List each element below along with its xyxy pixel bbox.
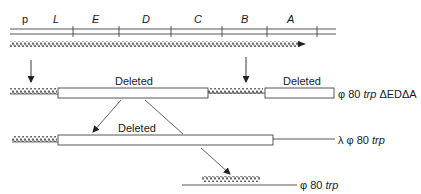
row-lambda-phi80-trp xyxy=(12,135,335,145)
gene-label-L: L xyxy=(53,13,59,25)
strain-prefix: λ φ 80 xyxy=(338,134,372,146)
deleted-label-2: Deleted xyxy=(283,75,321,87)
strain-prefix: φ 80 xyxy=(338,88,363,100)
arrow-diagonal-bottom xyxy=(201,148,230,174)
strain-gene: trp xyxy=(372,134,385,146)
strain-label-phi80-trp: φ 80 trp xyxy=(300,179,338,191)
mrna-transcript xyxy=(10,41,306,47)
gene-label-A: A xyxy=(287,13,294,25)
row-phi80-trp-deletion xyxy=(10,88,334,98)
strain-gene: trp xyxy=(325,179,338,191)
strain-label-phi80-trp-deletion: φ 80 trp ΔEDΔA xyxy=(338,88,417,100)
deleted-label-1: Deleted xyxy=(115,75,153,87)
deleted-label-3: Deleted xyxy=(118,122,156,134)
arrow-diagonal-left xyxy=(93,100,121,132)
gene-label-B: B xyxy=(241,13,248,25)
strain-suffix: ΔEDΔA xyxy=(376,88,416,100)
gene-label-E: E xyxy=(92,13,99,25)
gene-map xyxy=(10,26,336,37)
strain-label-lambda-phi80-trp: λ φ 80 trp xyxy=(338,134,385,146)
gene-label-D: D xyxy=(142,13,150,25)
gene-label-C: C xyxy=(194,13,202,25)
row-phi80-trp xyxy=(182,176,297,185)
strain-prefix: φ 80 xyxy=(300,179,325,191)
gene-label-p: p xyxy=(22,13,28,25)
strain-gene: trp xyxy=(363,88,376,100)
